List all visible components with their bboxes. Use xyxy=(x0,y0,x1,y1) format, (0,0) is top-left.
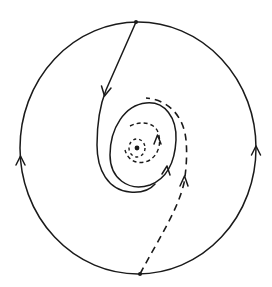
bottom-point xyxy=(138,272,142,276)
equilibrium-point xyxy=(135,146,140,151)
phase-portrait-diagram xyxy=(0,0,272,287)
top-point xyxy=(134,20,138,24)
limit-cycle xyxy=(110,103,176,187)
arrow-up-icon xyxy=(154,135,161,144)
outer-solid-trajectory xyxy=(97,22,155,192)
